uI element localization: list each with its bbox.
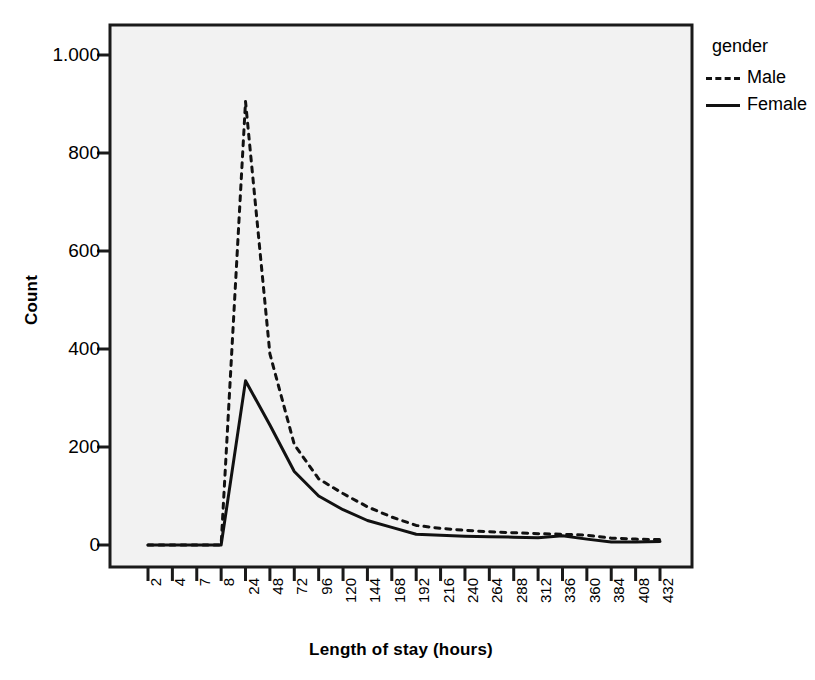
x-tick-label: 4: [171, 578, 188, 586]
legend-label-female: Female: [747, 94, 807, 115]
y-tick-label: 600: [68, 240, 100, 262]
y-axis-title: Count: [22, 275, 42, 325]
x-axis-tick-labels: 2478244872961201441681922162402642883123…: [0, 578, 815, 638]
x-tick-label: 7: [195, 578, 212, 586]
legend-label-male: Male: [747, 67, 786, 88]
x-tick-label: 288: [512, 578, 529, 603]
x-tick-label: 8: [220, 578, 237, 586]
x-tick-label: 192: [415, 578, 432, 603]
dashed-line-icon: [706, 71, 740, 85]
x-tick-label: 216: [439, 578, 456, 603]
x-tick-label: 264: [488, 578, 505, 603]
y-axis-title-wrap: Count: [36, 0, 38, 600]
y-tick-label: 200: [68, 436, 100, 458]
y-tick-label: 400: [68, 338, 100, 360]
y-tick-label: 0: [89, 534, 100, 556]
x-tick-label: 2: [147, 578, 164, 586]
x-tick-label: 72: [293, 578, 310, 595]
x-tick-label: 120: [342, 578, 359, 603]
x-tick-label: 384: [610, 578, 627, 603]
x-tick-label: 48: [268, 578, 285, 595]
x-tick-label: 168: [390, 578, 407, 603]
x-tick-label: 312: [537, 578, 554, 603]
y-axis-tick-labels: 02004006008001.000: [0, 0, 100, 600]
y-tick-label: 800: [68, 142, 100, 164]
x-tick-label: 336: [561, 578, 578, 603]
x-tick-label: 432: [659, 578, 676, 603]
legend-item-female: Female: [706, 91, 811, 118]
solid-line-icon: [706, 98, 740, 112]
x-tick-label: 144: [366, 578, 383, 603]
x-tick-label: 24: [244, 578, 261, 595]
x-tick-label: 96: [317, 578, 334, 595]
plot-background: [110, 25, 692, 567]
legend: gender Male Female: [706, 36, 811, 118]
legend-title: gender: [706, 36, 811, 57]
chart-figure: 02004006008001.000 Count 247824487296120…: [0, 0, 815, 680]
y-tick-label: 1.000: [52, 44, 100, 66]
legend-item-male: Male: [706, 64, 811, 91]
x-axis-title: Length of stay (hours): [309, 640, 493, 660]
x-tick-label: 360: [585, 578, 602, 603]
x-tick-label: 240: [463, 578, 480, 603]
x-tick-label: 408: [634, 578, 651, 603]
